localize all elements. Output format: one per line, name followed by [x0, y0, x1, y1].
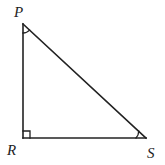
- vertex-label-r: R: [6, 142, 16, 158]
- triangle-diagram: P R S: [0, 0, 165, 165]
- angle-arc-p: [23, 30, 30, 33]
- right-angle-mark-r: [23, 131, 30, 138]
- angle-arc-s: [136, 131, 139, 138]
- vertex-label-p: P: [13, 4, 23, 20]
- vertex-label-s: S: [147, 145, 155, 161]
- side-ps: [23, 24, 146, 138]
